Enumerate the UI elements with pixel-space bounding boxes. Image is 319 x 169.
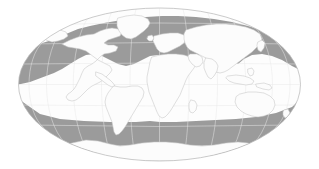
world-map-svg	[0, 0, 319, 169]
world-map-figure	[0, 0, 319, 169]
land-philippines	[248, 68, 254, 76]
land-new-zealand	[283, 109, 290, 118]
